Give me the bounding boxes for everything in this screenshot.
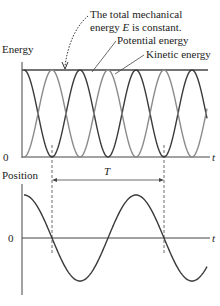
annotation-line1: The total mechanical	[90, 8, 182, 20]
potential-energy-label: Potential energy	[117, 34, 189, 46]
potential-leader-line	[92, 41, 116, 72]
arrow-right-icon	[159, 178, 164, 182]
annotation-arrow	[65, 16, 88, 66]
energy-ylabel: Energy	[2, 43, 34, 55]
kinetic-leader-line	[115, 55, 144, 74]
annotation-line2: energy E is constant.	[90, 21, 182, 33]
kinetic-energy-label: Kinetic energy	[146, 48, 211, 60]
position-t-label: t	[212, 232, 216, 244]
energy-t-label: t	[212, 151, 216, 163]
energy-position-diagram: The total mechanical energy E is constan…	[0, 0, 220, 306]
arrow-left-icon	[52, 178, 57, 182]
energy-zero-label: 0	[3, 151, 9, 163]
position-zero-label: 0	[8, 232, 14, 244]
period-label: T	[104, 165, 111, 177]
position-ylabel: Position	[2, 169, 39, 181]
arrowhead-icon	[62, 62, 68, 69]
